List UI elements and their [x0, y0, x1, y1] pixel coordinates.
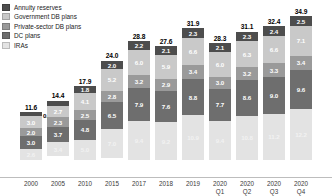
- bar-segment-label: 2.3: [189, 30, 197, 37]
- bar-segment[interactable]: 6.0: [128, 50, 150, 75]
- bar-segment[interactable]: 2.1: [155, 46, 177, 55]
- x-axis-tick-label: 2005: [45, 180, 71, 188]
- stacked-bar[interactable]: 2.72.33.73.4: [47, 101, 69, 160]
- bar-segment[interactable]: 9.4: [128, 121, 150, 160]
- bar-group[interactable]: 34.92.57.13.49.612.2: [288, 8, 314, 161]
- bar-segment[interactable]: 6.6: [182, 38, 204, 65]
- bar-segment[interactable]: 12.2: [290, 109, 312, 159]
- bar-group[interactable]: 31.12.36.33.28.610.8: [234, 23, 260, 160]
- bar-segment[interactable]: 9.0: [263, 77, 285, 114]
- bar-group[interactable]: 28.82.26.03.27.99.4: [126, 33, 152, 160]
- bar-segment[interactable]: 7.6: [155, 91, 177, 122]
- bar-segment-label: 9.4: [135, 137, 143, 144]
- bar-segment-label: 7.9: [135, 101, 143, 108]
- plot-area: 11.63.02.03.02.60.914.42.72.33.73.417.91…: [0, 0, 332, 178]
- bar-segment[interactable]: 3.2: [128, 75, 150, 88]
- bar-segment[interactable]: 2.4: [263, 26, 285, 36]
- bar-segment[interactable]: 6.5: [101, 102, 123, 129]
- bar-segment[interactable]: 2.6: [20, 149, 42, 160]
- bar-group[interactable]: 17.91.84.12.54.85.0: [72, 78, 98, 160]
- bar-total-label: 27.6: [160, 38, 172, 46]
- x-tick-line2: Q1: [207, 188, 233, 196]
- bar-segment[interactable]: 4.8: [74, 120, 96, 139]
- x-tick-line1: 2010: [72, 180, 98, 188]
- stacked-bar[interactable]: 2.26.03.27.99.4: [128, 41, 150, 160]
- bar-segment[interactable]: 5.2: [101, 69, 123, 90]
- bar-group[interactable]: 32.42.46.63.39.011.2: [261, 18, 287, 160]
- bar-segment[interactable]: 9.6: [290, 70, 312, 110]
- bar-segment[interactable]: 2.0: [101, 61, 123, 69]
- bar-group[interactable]: 11.63.02.03.02.6: [18, 104, 44, 160]
- bar-segment[interactable]: 5.9: [155, 55, 177, 79]
- stacked-bar[interactable]: 2.15.92.97.69.2: [155, 46, 177, 160]
- bar-segment[interactable]: 9.4: [209, 121, 231, 160]
- bar-segment[interactable]: 9.2: [155, 122, 177, 160]
- bar-segment[interactable]: 10.8: [236, 116, 258, 160]
- bar-segment[interactable]: 8.8: [182, 79, 204, 115]
- bar-segment[interactable]: 2.3: [182, 28, 204, 37]
- stacked-bar[interactable]: 3.02.03.02.6: [20, 112, 42, 160]
- bar-segment[interactable]: 3.0: [20, 116, 42, 128]
- bar-segment[interactable]: 2.3: [236, 32, 258, 41]
- stacked-bar[interactable]: 2.36.63.48.810.9: [182, 28, 204, 160]
- bar-segment[interactable]: 2.2: [128, 41, 150, 50]
- bar-segment[interactable]: 3.0: [20, 136, 42, 148]
- bar-segment-label: 5.0: [81, 146, 89, 153]
- bar-segment[interactable]: 2.9: [155, 79, 177, 91]
- bar-segment-label: 6.6: [270, 46, 278, 53]
- bar-total-label: 24.0: [106, 52, 118, 60]
- stacked-bar[interactable]: 2.46.63.39.011.2: [263, 26, 285, 160]
- bar-segment[interactable]: 7.1: [290, 26, 312, 55]
- bar-group[interactable]: 24.02.05.22.86.57.0: [99, 52, 125, 160]
- bar-segment[interactable]: 3.4: [47, 142, 69, 156]
- bar-segment[interactable]: 2.8: [101, 91, 123, 103]
- stacked-bar[interactable]: 2.57.13.49.612.2: [290, 16, 312, 160]
- bar-segment[interactable]: 10.9: [182, 115, 204, 160]
- bar-segment[interactable]: 6.0: [209, 52, 231, 77]
- bar-segment[interactable]: 8.6: [236, 80, 258, 115]
- bar-segment[interactable]: 3.2: [236, 67, 258, 80]
- stacked-bar[interactable]: 2.05.22.86.57.0: [101, 61, 123, 160]
- x-tick-line1: 2017: [126, 180, 152, 188]
- bar-segment[interactable]: 6.3: [236, 41, 258, 67]
- bar-segment[interactable]: 2.5: [290, 16, 312, 26]
- bar-segment-label: 10.8: [241, 134, 253, 141]
- bar-segment[interactable]: 2.0: [20, 128, 42, 136]
- x-tick-line1: 2018: [153, 180, 179, 188]
- bar-segment[interactable]: 2.5: [74, 110, 96, 120]
- bar-segment-label: 6.0: [216, 61, 224, 68]
- bar-group[interactable]: 27.62.15.92.97.69.2: [153, 38, 179, 160]
- bar-segment[interactable]: 11.2: [263, 114, 285, 160]
- bar-segment[interactable]: 3.3: [263, 63, 285, 77]
- bar-segment-label: 2.3: [243, 33, 251, 40]
- bar-segment[interactable]: 2.7: [47, 106, 69, 117]
- bar-segment-label: 3.3: [270, 67, 278, 74]
- bar-segment[interactable]: 3.0: [209, 77, 231, 89]
- bar-segment[interactable]: 2.1: [209, 43, 231, 52]
- bar-segment[interactable]: 7.7: [209, 89, 231, 121]
- bar-segment[interactable]: 2.3: [47, 117, 69, 126]
- bar-segment[interactable]: 3.4: [290, 56, 312, 70]
- bar-group[interactable]: 31.92.36.63.48.810.9: [180, 20, 206, 160]
- bar-segment-label: 11.2: [268, 133, 279, 140]
- bar-segment-label: 7.1: [297, 37, 305, 44]
- x-axis-tick-label: 2020Q2: [234, 180, 260, 195]
- bar-segment-label: 9.2: [162, 138, 170, 145]
- bar-group[interactable]: 28.32.16.03.07.79.4: [207, 35, 233, 160]
- stacked-bar[interactable]: 2.16.03.07.79.4: [209, 43, 231, 160]
- bar-segment[interactable]: 6.6: [263, 36, 285, 63]
- bar-segment-label: 7.6: [162, 103, 170, 110]
- bar-segment[interactable]: 4.1: [74, 93, 96, 110]
- stacked-bar[interactable]: 2.36.33.28.610.8: [236, 32, 258, 160]
- bar-segment[interactable]: 7.0: [101, 129, 123, 158]
- stacked-bar[interactable]: 1.84.12.54.85.0: [74, 86, 96, 160]
- bar-segment[interactable]: 3.7: [47, 127, 69, 142]
- bar-segment[interactable]: 3.4: [182, 65, 204, 79]
- bar-segment[interactable]: 5.0: [74, 140, 96, 160]
- bar-segment[interactable]: 7.9: [128, 88, 150, 121]
- x-tick-line1: 2000: [18, 180, 44, 188]
- bar-segment[interactable]: 1.8: [74, 86, 96, 93]
- bar-segment-label: 7.0: [108, 140, 116, 147]
- x-tick-line1: 2015: [99, 180, 125, 188]
- bar-group[interactable]: 14.42.72.33.73.4: [45, 92, 71, 160]
